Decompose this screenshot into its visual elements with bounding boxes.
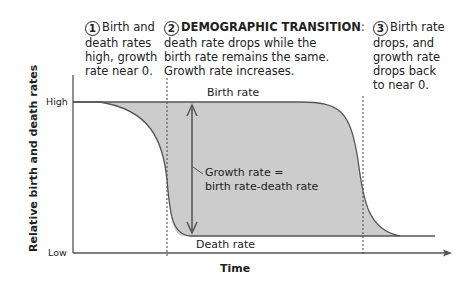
annotation-stage-1: 1Birth and death rates high, growth rate… bbox=[85, 20, 157, 78]
stage-1-badge: 1 bbox=[85, 21, 100, 36]
stage-3-badge: 3 bbox=[373, 21, 388, 36]
death-rate-label: Death rate bbox=[196, 238, 255, 251]
annotation-stage-3: 3Birth rate drops, and growth rate drops… bbox=[373, 20, 445, 92]
stage-2-heading: DEMOGRAPHIC TRANSITION bbox=[181, 20, 361, 34]
birth-rate-label: Birth rate bbox=[207, 86, 259, 99]
x-axis-label: Time bbox=[220, 262, 250, 275]
stage-2-badge: 2 bbox=[164, 21, 179, 36]
y-tick-low: Low bbox=[48, 247, 67, 258]
annotation-stage-2: 2DEMOGRAPHIC TRANSITION: death rate drop… bbox=[164, 20, 365, 78]
y-axis-label: Relative birth and death rates bbox=[27, 65, 40, 252]
y-tick-high: High bbox=[46, 96, 68, 107]
growth-rate-label: Growth rate = birth rate-death rate bbox=[205, 166, 318, 194]
